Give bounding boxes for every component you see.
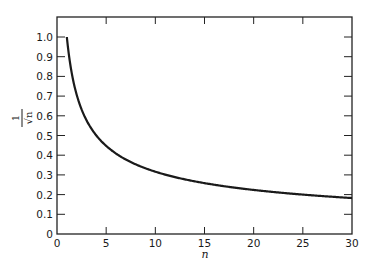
- y-tick-label: 1.0: [36, 31, 53, 43]
- data-line-inv-sqrt-n: [67, 37, 352, 198]
- x-tick-label: 5: [103, 237, 110, 249]
- y-axis-label-numerator: 1: [10, 115, 21, 121]
- y-tick-label: 0.5: [36, 130, 53, 142]
- y-tick-label: 0.9: [36, 51, 53, 63]
- plot-frame: [57, 17, 352, 234]
- x-tick-label: 30: [345, 237, 358, 249]
- y-tick-label: 0.4: [36, 149, 53, 161]
- y-tick-label: 0.7: [36, 90, 53, 102]
- y-tick-labels: 00.10.20.30.40.50.60.70.80.91.0: [36, 31, 53, 240]
- tick-marks: [57, 17, 352, 234]
- x-tick-label: 10: [149, 237, 162, 249]
- x-tick-label: 25: [296, 237, 309, 249]
- y-tick-label: 0.8: [36, 70, 53, 82]
- y-axis-label-denominator: √n: [23, 111, 34, 124]
- x-tick-label: 0: [54, 237, 61, 249]
- chart: 051015202530 00.10.20.30.40.50.60.70.80.…: [0, 0, 370, 273]
- y-tick-label: 0.2: [36, 189, 53, 201]
- y-tick-label: 0.1: [36, 208, 53, 220]
- y-tick-label: 0.6: [36, 110, 53, 122]
- y-axis-label: 1 √n: [10, 109, 34, 127]
- plot-border: [57, 17, 352, 234]
- x-tick-label: 20: [247, 237, 260, 249]
- x-axis-label: n: [201, 248, 208, 261]
- y-tick-label: 0.3: [36, 169, 53, 181]
- y-tick-label: 0: [46, 228, 53, 240]
